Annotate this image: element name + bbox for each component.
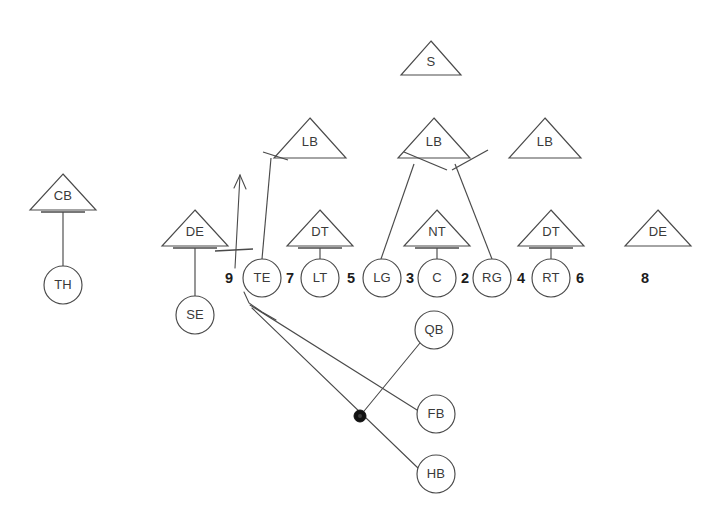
gap-number-5: 5 [347, 270, 355, 286]
lb-mid-to-lg [381, 164, 414, 259]
offense-lt-1-label: LT [313, 270, 328, 285]
defense-layer: SCBLBLBLBDEDTNTDTDE [30, 41, 691, 246]
offense-fb-1-label: FB [427, 406, 444, 421]
defender-lb-2-label: LB [537, 134, 553, 149]
lb-left-to-te [262, 158, 271, 259]
route-to-hb [252, 308, 419, 469]
offense-layer: TELTLGCRGRTSETHQBFBHB [44, 259, 570, 493]
defender-lb-1[interactable]: LB [398, 118, 470, 158]
defender-dt-line-1[interactable]: DT [287, 210, 353, 246]
defender-nt-line-2[interactable]: NT [404, 210, 470, 246]
defender-cb-1-label: CB [54, 188, 72, 203]
offense-lg-2[interactable]: LG [363, 259, 401, 297]
offense-th-1[interactable]: TH [44, 266, 82, 304]
gap-number-2: 2 [461, 270, 469, 286]
offense-c-3[interactable]: C [418, 259, 456, 297]
play-diagram-canvas: SCBLBLBLBDEDTNTDTDE TELTLGCRGRTSETHQBFBH… [0, 0, 722, 521]
lb-mid-to-lg-crossbar [404, 152, 447, 170]
play-diagram: SCBLBLBLBDEDTNTDTDE TELTLGCRGRTSETHQBFBH… [0, 0, 722, 521]
defender-lb-1-label: LB [426, 134, 442, 149]
offense-hb-2[interactable]: HB [417, 455, 455, 493]
gap-number-4: 4 [517, 270, 525, 286]
lb-mid-to-rg-crossbar [452, 150, 488, 170]
defender-nt-line-2-label: NT [428, 224, 446, 239]
offense-hb-2-label: HB [427, 466, 445, 481]
offense-qb-0-label: QB [424, 322, 443, 337]
gap-number-3: 3 [406, 270, 414, 286]
lb-mid-to-rg [455, 164, 492, 259]
offense-te-0-label: TE [253, 270, 270, 285]
offense-lg-2-label: LG [373, 270, 391, 285]
defender-s-0-label: S [427, 54, 436, 69]
defender-de-line-4-label: DE [649, 224, 668, 239]
defender-dt-line-3[interactable]: DT [518, 210, 584, 246]
offense-te-0[interactable]: TE [243, 259, 281, 297]
defender-dt-line-1-label: DT [311, 224, 329, 239]
assignment-lines-layer [41, 150, 573, 469]
blitz-arrow-shaft [235, 175, 240, 268]
offense-rt-5-label: RT [542, 270, 560, 285]
offense-se-0-label: SE [186, 307, 204, 322]
blitz-arrow-crossbar [215, 249, 253, 251]
gap-number-8: 8 [641, 270, 649, 286]
ball-marker-center [358, 414, 362, 418]
offense-rg-4-label: RG [482, 270, 502, 285]
offense-rg-4[interactable]: RG [473, 259, 511, 297]
gap-number-6: 6 [576, 270, 584, 286]
offense-lt-1[interactable]: LT [301, 259, 339, 297]
defender-dt-line-3-label: DT [542, 224, 560, 239]
offense-fb-1[interactable]: FB [417, 395, 455, 433]
defender-de-line-0[interactable]: DE [162, 210, 228, 246]
offense-c-3-label: C [432, 270, 442, 285]
gap-number-7: 7 [286, 270, 294, 286]
gap-number-9: 9 [225, 270, 233, 286]
offense-rt-5[interactable]: RT [532, 259, 570, 297]
defender-de-line-4[interactable]: DE [625, 210, 691, 246]
defender-de-line-0-label: DE [186, 224, 205, 239]
route-to-fb [250, 305, 417, 410]
defender-lb-0[interactable]: LB [274, 118, 346, 158]
defender-cb-1[interactable]: CB [30, 174, 96, 210]
offense-qb-0[interactable]: QB [415, 311, 453, 349]
defender-lb-0-label: LB [302, 134, 318, 149]
offense-se-0[interactable]: SE [176, 296, 214, 334]
offense-th-1-label: TH [54, 277, 72, 292]
defender-s-0[interactable]: S [401, 41, 461, 75]
defender-lb-2[interactable]: LB [509, 118, 581, 158]
